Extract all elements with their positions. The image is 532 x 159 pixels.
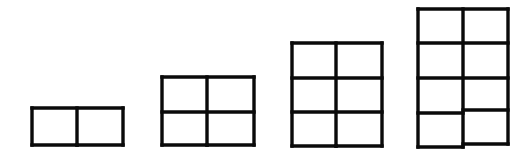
grid-sequence-diagram — [0, 0, 532, 159]
figure-1-grid-2x1 — [32, 108, 123, 145]
figure-2-grid-2x2 — [162, 77, 254, 145]
figure-4-grid-2x4 — [418, 9, 508, 147]
figure-3-grid-2x3 — [292, 43, 382, 146]
